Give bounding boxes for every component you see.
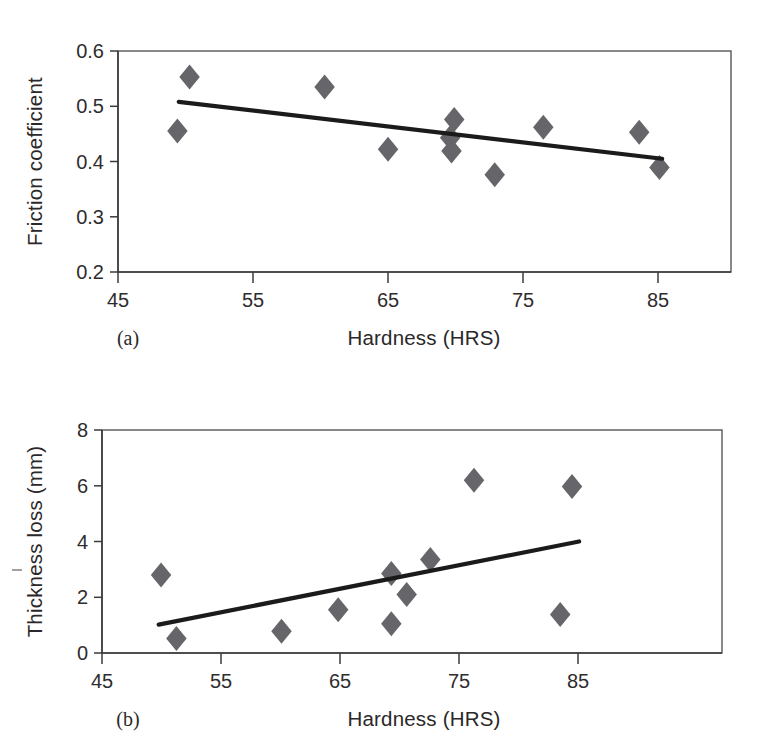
y-tick-label-a-0: 0.2 xyxy=(76,261,104,283)
figure-root: 0.2 0.3 0.4 0.5 0.6 45 55 65 75 85 Frict… xyxy=(0,0,763,753)
plot-area-a xyxy=(118,51,731,272)
x-tick-label-b-2: 65 xyxy=(329,670,351,692)
x-axis-title-a: Hardness (HRS) xyxy=(347,326,500,349)
y-tick-label-b-0: 0 xyxy=(77,642,88,664)
x-tick-label-b-1: 55 xyxy=(210,670,232,692)
chart-panel-b: 0 2 4 6 8 45 55 65 75 85 Thickness loss … xyxy=(0,380,763,753)
x-tick-label-a-1: 55 xyxy=(242,289,264,311)
y-tick-label-b-4: 8 xyxy=(77,419,88,441)
chart-b-svg: 0 2 4 6 8 45 55 65 75 85 Thickness loss … xyxy=(0,380,763,753)
y-axis-title-b: Thickness loss (mm) xyxy=(23,446,46,638)
x-tick-label-b-4: 85 xyxy=(567,670,589,692)
y-tick-label-b-3: 6 xyxy=(77,475,88,497)
x-axis-title-b: Hardness (HRS) xyxy=(347,707,500,730)
panel-tag-a: (a) xyxy=(117,327,139,350)
chart-a-svg: 0.2 0.3 0.4 0.5 0.6 45 55 65 75 85 Frict… xyxy=(0,0,763,380)
panel-tag-b: (b) xyxy=(116,708,139,731)
y-tick-label-a-1: 0.3 xyxy=(76,206,104,228)
x-tick-label-a-2: 65 xyxy=(377,289,399,311)
y-tick-label-a-2: 0.4 xyxy=(76,151,104,173)
y-tick-label-b-1: 2 xyxy=(77,586,88,608)
y-axis-title-a: Friction coefficient xyxy=(23,77,46,246)
plot-area-b xyxy=(102,430,722,653)
x-tick-label-a-3: 75 xyxy=(512,289,534,311)
y-tick-label-b-2: 4 xyxy=(77,531,88,553)
chart-panel-a: 0.2 0.3 0.4 0.5 0.6 45 55 65 75 85 Frict… xyxy=(0,0,763,380)
x-tick-label-b-0: 45 xyxy=(91,670,113,692)
y-tick-label-a-4: 0.6 xyxy=(76,40,104,62)
x-tick-label-b-3: 75 xyxy=(448,670,470,692)
x-tick-label-a-0: 45 xyxy=(107,289,129,311)
y-tick-label-a-3: 0.5 xyxy=(76,95,104,117)
x-tick-label-a-4: 85 xyxy=(647,289,669,311)
